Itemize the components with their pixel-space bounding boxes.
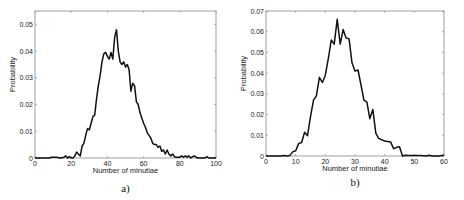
x-tick-label: 0 [264, 158, 268, 165]
y-tick-label: 0.07 [250, 8, 264, 15]
y-tick-label: 0.02 [19, 101, 33, 108]
panel-a: 020406080100 00.010.020.030.040.05 Numbe… [8, 11, 222, 195]
panel-b: 0102030405060 00.010.020.030.040.050.060… [239, 8, 448, 190]
plot-b-probability-line [266, 19, 444, 156]
x-tick-label: 80 [176, 160, 184, 167]
plot-a-axes-frame [35, 11, 216, 158]
y-tick-label: 0.06 [250, 28, 264, 35]
plot-a-probability-line [35, 30, 216, 158]
y-tick-label: 0.04 [250, 70, 264, 77]
y-tick-label: 0 [29, 155, 33, 162]
plot-b-y-axis-label: Probability [239, 56, 248, 91]
y-tick-label: 0.04 [19, 48, 33, 55]
x-tick-label: 20 [67, 160, 75, 167]
figure: 020406080100 00.010.020.030.040.05 Numbe… [0, 0, 464, 200]
x-tick-label: 50 [410, 158, 418, 165]
x-tick-label: 100 [210, 160, 222, 167]
x-tick-label: 10 [292, 158, 300, 165]
plot-a-caption: a) [121, 182, 130, 195]
y-tick-label: 0.03 [19, 74, 33, 81]
y-tick-label: 0.05 [19, 21, 33, 28]
plot-a-x-axis-label: Number of minutiae [93, 166, 158, 175]
y-tick-label: 0 [260, 153, 264, 160]
x-tick-label: 60 [440, 158, 448, 165]
y-tick-label: 0.01 [19, 128, 33, 135]
plot-a-y-axis-label: Probability [8, 57, 17, 92]
plot-b-axes-frame [266, 11, 444, 156]
plot-b-caption: b) [350, 176, 360, 189]
plot-b-x-axis-label: Number of minutiae [322, 164, 387, 173]
y-tick-label: 0.03 [250, 90, 264, 97]
x-tick-label: 0 [33, 160, 37, 167]
y-tick-label: 0.01 [250, 132, 264, 139]
y-tick-label: 0.05 [250, 49, 264, 56]
y-tick-label: 0.02 [250, 111, 264, 118]
